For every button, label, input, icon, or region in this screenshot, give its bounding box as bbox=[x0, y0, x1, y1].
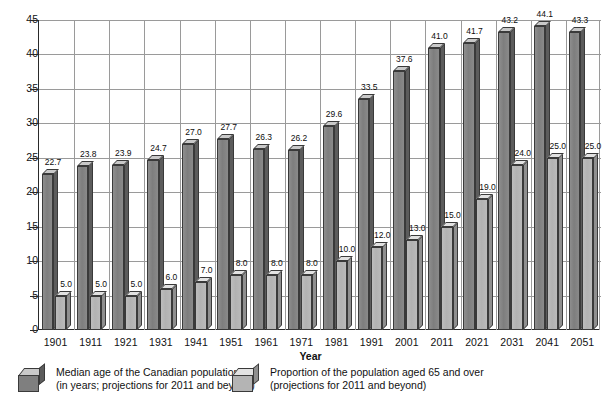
bar-side-face bbox=[453, 222, 458, 330]
y-tick-mark bbox=[30, 192, 38, 193]
bar-median-age bbox=[463, 43, 475, 330]
bar-proportion-65 bbox=[406, 240, 418, 330]
y-tick-label: 30 bbox=[12, 117, 38, 127]
bar-median-age bbox=[288, 150, 300, 330]
x-tick-label: 1971 bbox=[284, 336, 319, 348]
y-tick-mark bbox=[30, 227, 38, 228]
bar-value-label: 5.0 bbox=[56, 280, 77, 289]
bar-median-age bbox=[358, 99, 370, 330]
bar-value-label: 44.1 bbox=[535, 10, 556, 19]
bar-front-face bbox=[77, 166, 89, 330]
bar-value-label: 8.0 bbox=[231, 259, 252, 268]
bar-value-label: 27.7 bbox=[218, 123, 239, 132]
bar-front-face bbox=[160, 289, 172, 330]
bar-value-label: 22.7 bbox=[43, 158, 64, 167]
bar-side-face bbox=[593, 153, 598, 330]
bar-front-face bbox=[266, 275, 278, 330]
x-tick-label: 2041 bbox=[530, 336, 565, 348]
bar-side-face bbox=[137, 291, 142, 330]
gridline-vertical bbox=[250, 20, 251, 330]
bar-front-face bbox=[182, 144, 194, 330]
y-tick-label: 45 bbox=[12, 14, 38, 24]
bar-front-face bbox=[582, 158, 594, 330]
bar-value-label: 25.0 bbox=[583, 142, 604, 151]
bar-front-face bbox=[476, 199, 488, 330]
x-tick-label: 2031 bbox=[495, 336, 530, 348]
bar-front-face bbox=[547, 158, 559, 330]
bar-front-face bbox=[301, 275, 313, 330]
gridline-vertical bbox=[215, 20, 216, 330]
bar-proportion-65 bbox=[336, 261, 348, 330]
light-cube-icon bbox=[232, 368, 258, 392]
bar-side-face bbox=[172, 284, 177, 330]
bar-front-face bbox=[195, 282, 207, 330]
bar-median-age bbox=[534, 26, 546, 330]
bar-front-face bbox=[371, 247, 383, 330]
bar-median-age bbox=[42, 174, 54, 330]
y-tick-label: 35 bbox=[12, 83, 38, 93]
gridline-vertical bbox=[355, 20, 356, 330]
bar-front-face bbox=[428, 48, 440, 330]
bar-median-age bbox=[217, 139, 229, 330]
bar-front-face bbox=[90, 296, 102, 330]
bar-median-age bbox=[147, 160, 159, 330]
bar-side-face bbox=[66, 291, 71, 330]
y-tick-mark bbox=[30, 158, 38, 159]
bar-front-face bbox=[463, 43, 475, 330]
bar-value-label: 15.0 bbox=[442, 211, 463, 220]
y-tick-mark bbox=[30, 123, 38, 124]
bar-median-age bbox=[253, 149, 265, 330]
bar-value-label: 24.7 bbox=[148, 144, 169, 153]
bar-proportion-65 bbox=[301, 275, 313, 330]
bar-value-label: 41.7 bbox=[464, 27, 485, 36]
bar-proportion-65 bbox=[55, 296, 67, 330]
bar-front-face bbox=[147, 160, 159, 330]
y-axis: 051015202530354045 bbox=[0, 0, 38, 340]
bar-value-label: 23.9 bbox=[113, 149, 134, 158]
bar-proportion-65 bbox=[266, 275, 278, 330]
x-tick-label: 1991 bbox=[354, 336, 389, 348]
bar-value-label: 41.0 bbox=[429, 32, 450, 41]
bar-value-label: 25.0 bbox=[548, 142, 569, 151]
legend-label-median-age: Median age of the Canadian population (i… bbox=[56, 366, 255, 392]
gridline-vertical bbox=[531, 20, 532, 330]
bar-front-face bbox=[358, 99, 370, 330]
bar-value-label: 8.0 bbox=[302, 259, 323, 268]
y-tick-mark bbox=[30, 296, 38, 297]
bar-proportion-65 bbox=[195, 282, 207, 330]
bar-proportion-65 bbox=[511, 165, 523, 330]
bar-median-age bbox=[428, 48, 440, 330]
bar-chart: 051015202530354045 22.75.023.85.023.95.0… bbox=[0, 0, 615, 407]
gridline-vertical bbox=[180, 20, 181, 330]
bar-proportion-65 bbox=[582, 158, 594, 330]
bar-side-face bbox=[523, 160, 528, 330]
y-tick-mark bbox=[30, 54, 38, 55]
dark-cube-icon bbox=[18, 368, 44, 392]
gridline-vertical bbox=[425, 20, 426, 330]
x-tick-label: 2011 bbox=[424, 336, 459, 348]
bar-value-label: 10.0 bbox=[337, 245, 358, 254]
y-tick-label: 15 bbox=[12, 221, 38, 231]
bar-proportion-65 bbox=[476, 199, 488, 330]
gridline-vertical bbox=[461, 20, 462, 330]
legend-label-proportion-65: Proportion of the population aged 65 and… bbox=[270, 366, 484, 392]
bar-value-label: 26.2 bbox=[289, 134, 310, 143]
bar-proportion-65 bbox=[547, 158, 559, 330]
y-tick-label: 20 bbox=[12, 186, 38, 196]
bar-front-face bbox=[55, 296, 67, 330]
bar-value-label: 6.0 bbox=[161, 273, 182, 282]
bar-front-face bbox=[406, 240, 418, 330]
bar-median-age bbox=[569, 32, 581, 330]
bar-value-label: 43.3 bbox=[570, 16, 591, 25]
bar-side-face bbox=[347, 256, 352, 330]
x-tick-label: 1931 bbox=[143, 336, 178, 348]
legend-label-line1: Proportion of the population aged 65 and… bbox=[270, 366, 484, 378]
gridline-vertical bbox=[496, 20, 497, 330]
bar-value-label: 24.0 bbox=[512, 149, 533, 158]
bar-value-label: 27.0 bbox=[183, 128, 204, 137]
bar-median-age bbox=[393, 71, 405, 330]
bar-median-age bbox=[77, 166, 89, 330]
legend-label-line2: (projections for 2011 and beyond) bbox=[270, 379, 484, 392]
x-tick-label: 1941 bbox=[179, 336, 214, 348]
bar-value-label: 5.0 bbox=[126, 280, 147, 289]
